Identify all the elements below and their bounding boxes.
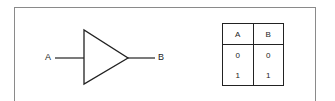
truth-table-cell: 1 [223, 65, 254, 86]
buffer-gate-triangle-icon [84, 30, 128, 84]
truth-table-row: 0 0 [223, 45, 284, 66]
truth-table: A B 0 0 1 1 [222, 23, 284, 86]
buffer-gate-diagram [0, 0, 335, 101]
truth-table-row: 1 1 [223, 65, 284, 86]
truth-table-header-a: A [223, 24, 254, 45]
truth-table-cell: 0 [223, 45, 254, 66]
truth-table-cell: 0 [253, 45, 284, 66]
truth-table-cell: 1 [253, 65, 284, 86]
truth-table-header-b: B [253, 24, 284, 45]
truth-table-header-row: A B [223, 24, 284, 45]
input-label: A [45, 53, 51, 62]
output-label: B [158, 53, 164, 62]
